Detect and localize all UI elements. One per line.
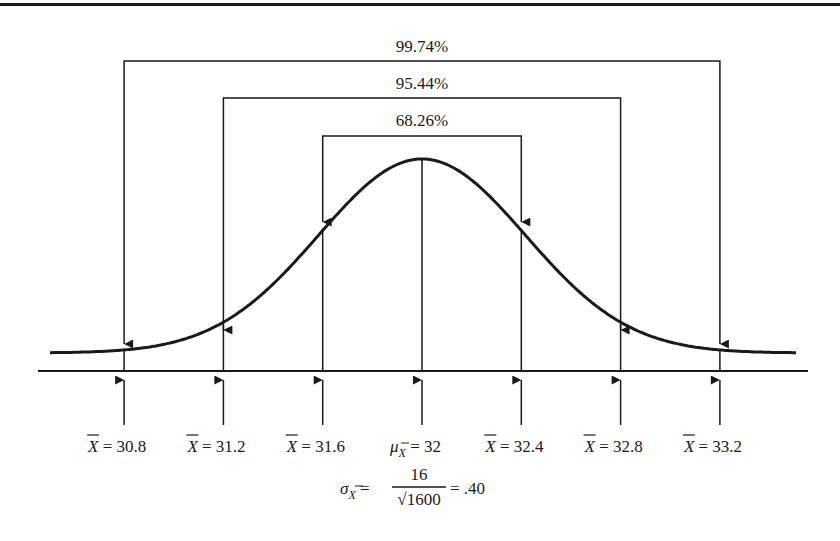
svg-text:X = 32.4: X = 32.4 xyxy=(484,437,544,456)
axis-label: X = 32.4 xyxy=(484,435,544,456)
axis-label: X = 33.2 xyxy=(683,435,742,456)
svg-text:X = 32.8: X = 32.8 xyxy=(584,437,643,456)
svg-text:X = 30.8: X = 30.8 xyxy=(87,437,146,456)
svg-text:X = 31.2: X = 31.2 xyxy=(186,437,245,456)
bell-curve-line xyxy=(50,159,796,353)
axis-label: X = 32.8 xyxy=(584,435,643,456)
formula-denominator: √1600 xyxy=(397,490,440,509)
axis-label: X = 31.2 xyxy=(186,435,245,456)
axis-label: X = 30.8 xyxy=(87,435,146,456)
x-axis xyxy=(38,371,808,425)
svg-text:μX = 32: μX = 32 xyxy=(389,437,441,460)
svg-text:X = 33.2: X = 33.2 xyxy=(683,437,742,456)
svg-text:X = 31.6: X = 31.6 xyxy=(286,437,345,456)
bell-curve xyxy=(50,159,796,371)
axis-label: μX = 32 xyxy=(389,437,441,460)
svg-text:σX =: σX = xyxy=(340,479,370,502)
formula-numerator: 16 xyxy=(411,465,428,484)
axis-value-labels: X = 30.8X = 31.2X = 31.6μX = 32X = 32.4X… xyxy=(87,435,742,460)
standard-error-formula: σX =16√1600= .40 xyxy=(340,465,485,509)
bracket-percent-label: 68.26% xyxy=(396,111,448,130)
axis-label: X = 31.6 xyxy=(286,435,345,456)
bracket-percent-label: 99.74% xyxy=(396,37,448,56)
bracket-percent-label: 95.44% xyxy=(396,74,448,93)
normal-distribution-diagram: 99.74%95.44%68.26% X = 30.8X = 31.2X = 3… xyxy=(0,0,840,541)
formula-result: = .40 xyxy=(450,479,485,498)
